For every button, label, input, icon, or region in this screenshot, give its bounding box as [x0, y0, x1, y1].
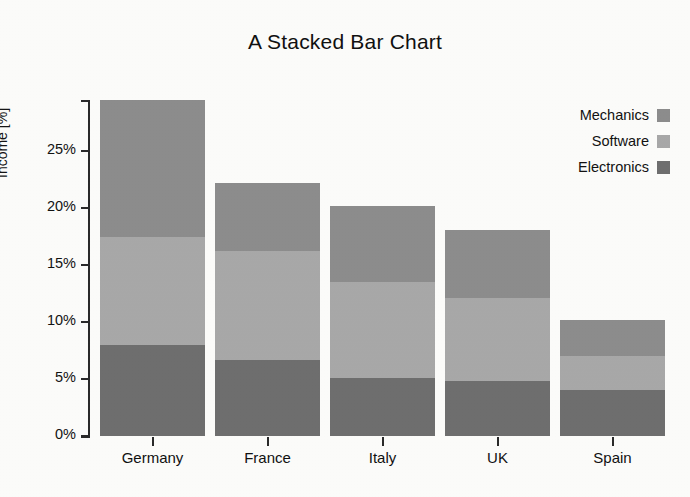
y-tick-mark: [81, 264, 89, 266]
y-tick-label-text: 5%: [14, 369, 76, 385]
y-tick-mark: [81, 150, 89, 152]
y-tick-label: 25%: [8, 141, 76, 159]
legend-item-electronics[interactable]: Electronics: [470, 154, 670, 180]
y-tick-mark: [81, 435, 89, 437]
y-tick-mark: [81, 321, 89, 323]
bar-segment-electronics[interactable]: [330, 378, 435, 436]
x-tick-label-germany: Germany: [93, 449, 213, 466]
legend-swatch-icon: [657, 109, 670, 122]
y-tick-label: 15%: [8, 255, 76, 273]
bar-france[interactable]: [215, 183, 320, 436]
bar-segment-electronics[interactable]: [100, 345, 205, 436]
bar-segment-electronics[interactable]: [445, 381, 550, 436]
bar-segment-mechanics[interactable]: [560, 320, 665, 356]
bar-segment-software[interactable]: [215, 251, 320, 359]
bar-segment-mechanics[interactable]: [330, 206, 435, 282]
legend-label: Electronics: [578, 159, 649, 175]
y-tick-label: 10%: [8, 312, 76, 330]
bar-italy[interactable]: [330, 206, 435, 436]
y-tick-label-text: 10%: [14, 312, 76, 328]
y-tick-mark: [81, 378, 89, 380]
x-tick-mark: [152, 437, 154, 446]
y-tick-label-text: 0%: [14, 426, 76, 442]
bar-segment-software[interactable]: [330, 282, 435, 378]
stacked-bar-chart: A Stacked Bar Chart Income [%] 0%5%10%15…: [0, 0, 690, 497]
bar-spain[interactable]: [560, 320, 665, 436]
bar-segment-mechanics[interactable]: [445, 230, 550, 298]
bar-segment-software[interactable]: [445, 298, 550, 381]
y-tick-label: 0%: [8, 426, 76, 444]
plot-area: 0%5%10%15%20%25% GermanyFranceItalyUKSpa…: [0, 0, 690, 497]
legend-item-software[interactable]: Software: [470, 128, 670, 154]
y-axis-top-cap: [81, 100, 90, 102]
x-tick-mark: [497, 437, 499, 446]
x-tick-mark: [267, 437, 269, 446]
bar-germany[interactable]: [100, 100, 205, 436]
x-tick-mark: [612, 437, 614, 446]
y-tick-label: 5%: [8, 369, 76, 387]
bar-segment-software[interactable]: [560, 356, 665, 390]
x-tick-label-uk: UK: [438, 449, 558, 466]
bar-uk[interactable]: [445, 230, 550, 436]
chart-legend: MechanicsSoftwareElectronics: [470, 102, 670, 180]
bar-segment-software[interactable]: [100, 237, 205, 345]
y-tick-label-text: 25%: [14, 141, 76, 157]
x-tick-label-france: France: [208, 449, 328, 466]
y-tick-label: 20%: [8, 198, 76, 216]
legend-item-mechanics[interactable]: Mechanics: [470, 102, 670, 128]
bar-segment-mechanics[interactable]: [215, 183, 320, 251]
y-tick-mark: [81, 207, 89, 209]
bar-segment-mechanics[interactable]: [100, 100, 205, 237]
legend-swatch-icon: [657, 161, 670, 174]
x-tick-label-italy: Italy: [323, 449, 443, 466]
x-tick-label-spain: Spain: [553, 449, 673, 466]
legend-label: Software: [592, 133, 649, 149]
bar-segment-electronics[interactable]: [215, 360, 320, 436]
legend-swatch-icon: [657, 135, 670, 148]
y-tick-label-text: 15%: [14, 255, 76, 271]
bar-segment-electronics[interactable]: [560, 390, 665, 436]
x-tick-mark: [382, 437, 384, 446]
legend-label: Mechanics: [580, 107, 649, 123]
y-tick-label-text: 20%: [14, 198, 76, 214]
